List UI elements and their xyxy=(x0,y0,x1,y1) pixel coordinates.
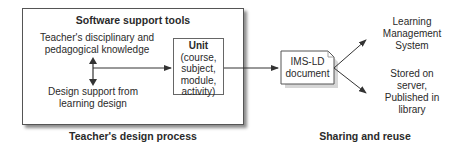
document-line-1: IMS-LD xyxy=(281,56,334,68)
stored-line-4: library xyxy=(370,104,454,116)
stored-line-1: Stored on xyxy=(370,68,454,80)
bidirectional-arrow-icon xyxy=(89,57,97,86)
arrow-to-storage-icon xyxy=(334,68,366,93)
sharing-and-reuse-caption: Sharing and reuse xyxy=(300,130,430,142)
document-line-2: document xyxy=(281,68,334,80)
document-label: IMS-LD document xyxy=(281,56,334,80)
lms-line-1: Learning xyxy=(370,16,454,28)
lms-line-2: Management xyxy=(370,28,454,40)
stored-line-2: server, xyxy=(370,80,454,92)
lms-line-3: System xyxy=(370,40,454,52)
stored-line-3: Published in xyxy=(370,92,454,104)
arrow-to-lms-icon xyxy=(334,40,366,68)
storage-destination: Stored on server, Published in library xyxy=(370,68,454,116)
lms-destination: Learning Management System xyxy=(370,16,454,52)
teachers-design-process-caption: Teacher's design process xyxy=(22,130,244,142)
